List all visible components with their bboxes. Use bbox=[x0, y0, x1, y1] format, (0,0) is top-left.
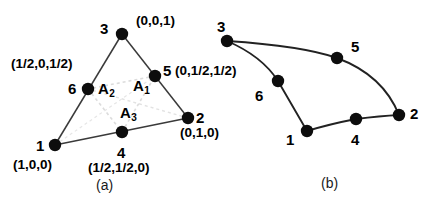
panel-a-node-label-5: 5 bbox=[163, 63, 171, 78]
panel-b-node-label-3: 3 bbox=[217, 19, 225, 34]
area-label-A1-base: A bbox=[133, 77, 144, 94]
node-marker-1 bbox=[49, 139, 61, 151]
panel-a-coord-label-2: (0,1,0) bbox=[180, 126, 219, 140]
area-label-A2-base: A bbox=[98, 80, 109, 97]
panel-a-coord-label-1: (1,0,0) bbox=[13, 158, 52, 172]
panel-b-node-label-4: 4 bbox=[351, 132, 359, 147]
panel-a-node-label-4: 4 bbox=[117, 145, 125, 160]
curved-edge-3-6-1 bbox=[227, 41, 307, 131]
panel-b-node-label-6: 6 bbox=[255, 88, 263, 103]
panel-a-area-label-A1: A1 bbox=[133, 78, 149, 93]
panel-b-node-label-1: 1 bbox=[286, 132, 294, 147]
node-marker-2 bbox=[393, 109, 405, 121]
node-marker-6 bbox=[82, 83, 94, 95]
panel-a-coord-label-6: (1/2,0,1/2) bbox=[11, 57, 73, 71]
node-marker-5 bbox=[149, 70, 161, 82]
node-marker-3 bbox=[116, 28, 128, 40]
panel-b-node-label-2: 2 bbox=[410, 106, 418, 121]
node-marker-4 bbox=[350, 113, 362, 125]
panel-a-area-label-A2: A2 bbox=[98, 81, 114, 96]
panel-a-node-label-6: 6 bbox=[68, 81, 76, 96]
area-label-A3-base: A bbox=[120, 104, 131, 121]
area-label-A1-sub: 1 bbox=[144, 85, 150, 96]
area-label-A2-sub: 2 bbox=[109, 88, 115, 99]
panel-b-edges bbox=[227, 41, 399, 131]
panel-a-coord-label-3: (0,0,1) bbox=[136, 14, 175, 28]
node-marker-1 bbox=[301, 125, 313, 137]
curved-edge-3-5-2 bbox=[227, 41, 399, 115]
panel-b-caption: (b) bbox=[321, 176, 338, 190]
figure-canvas bbox=[0, 0, 430, 204]
panel-a-coord-label-4: (1/2,1/2,0) bbox=[88, 161, 150, 175]
panel-a-node-label-1: 1 bbox=[36, 138, 44, 153]
panel-b-node-label-5: 5 bbox=[351, 39, 359, 54]
area-label-A3-sub: 3 bbox=[131, 112, 137, 123]
node-marker-2 bbox=[182, 112, 194, 124]
panel-a-node-label-3: 3 bbox=[100, 21, 108, 36]
node-marker-5 bbox=[331, 52, 343, 64]
node-marker-3 bbox=[221, 35, 233, 47]
panel-a-caption: (a) bbox=[96, 178, 113, 192]
node-marker-6 bbox=[272, 75, 284, 87]
panel-b-nodes bbox=[221, 35, 405, 137]
panel-a-area-label-A3: A3 bbox=[120, 105, 136, 120]
panel-a-coord-label-5: (0,1/2,1/2) bbox=[175, 64, 237, 78]
node-marker-4 bbox=[116, 126, 128, 138]
figure-root: 1 (1,0,0) 2 (0,1,0) 3 (0,0,1) 4 (1/2,1/2… bbox=[0, 0, 430, 204]
panel-a-node-label-2: 2 bbox=[196, 110, 204, 125]
